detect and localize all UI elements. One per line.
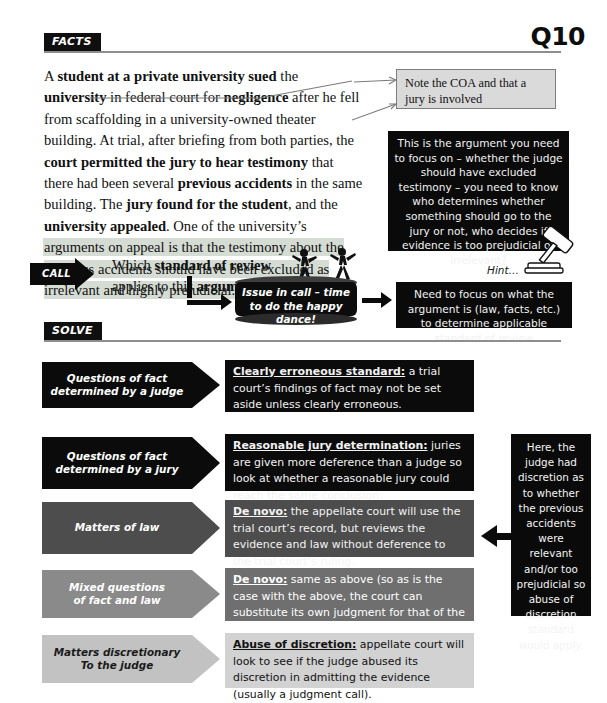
issue-in-call-drum: Issue in call – time to do the happy dan…: [235, 276, 357, 320]
row-definition-3: De novo: the appellate court will use th…: [225, 500, 474, 557]
table-row: Matters discretionary To the judge: [42, 635, 220, 683]
row-definition-2: Reasonable jury determination: juries ar…: [225, 434, 474, 491]
facts-section-rule: [44, 51, 561, 53]
row-label-line2: of fact and law: [73, 594, 160, 606]
arrow-shaft: [497, 533, 511, 540]
call-arrow: CALL: [30, 258, 94, 290]
call-arrow-elbow: [187, 276, 192, 298]
hint-label: Hint…: [487, 264, 519, 276]
row-arrow-head: [192, 570, 220, 618]
facts-note-box: Note the COA and that a jury is involved: [396, 69, 556, 109]
call-arrow-head: [75, 258, 94, 290]
row-label-3: Matters of law: [42, 502, 192, 554]
row-label-2: Questions of fact determined by a jury: [42, 437, 192, 489]
row-definition-1: Clearly erroneous standard: a trial cour…: [225, 360, 474, 412]
table-row: Questions of fact determined by a jury: [42, 437, 220, 489]
drum-text: Issue in call – time to do the happy dan…: [235, 286, 357, 327]
row-label-1: Questions of fact determined by a judge: [42, 362, 192, 408]
row-arrow-head: [192, 437, 220, 489]
row-term-4: De novo:: [233, 573, 287, 586]
row-label-line2: determined by a judge: [51, 385, 184, 397]
call-to-issue-arrow: [187, 294, 232, 310]
page-title: Q10: [530, 22, 585, 51]
arrow-head: [481, 525, 497, 547]
solve-callout-arrow: [481, 525, 511, 547]
arrow-head: [381, 292, 392, 308]
row-term-1: Clearly erroneous standard:: [233, 365, 405, 378]
table-row: Mixed questions of fact and law: [42, 570, 220, 618]
section-label-solve: SOLVE: [44, 322, 102, 340]
row-definition-4: De novo: same as above (so as is the cas…: [225, 568, 474, 621]
row-label-line1: Questions of fact: [67, 372, 167, 384]
row-term-3: De novo:: [233, 505, 287, 518]
row-label-line1: Matters discretionary: [54, 646, 181, 658]
call-label: CALL: [30, 263, 75, 285]
arrow-shaft: [362, 298, 381, 303]
row-label-line1: Mixed questions: [69, 581, 165, 593]
issue-to-note-arrow: [362, 292, 392, 308]
arrow-head: [221, 294, 232, 310]
row-term-5: Abuse of discretion:: [233, 638, 356, 651]
row-label-line1: Questions of fact: [67, 450, 167, 462]
solve-section-rule: [44, 340, 561, 342]
row-label-5: Matters discretionary To the judge: [42, 635, 192, 683]
facts-underline-connector: [90, 78, 360, 104]
arrow-shaft: [187, 300, 221, 305]
row-arrow-head: [192, 502, 220, 554]
row-label-line2: To the judge: [81, 659, 153, 671]
solve-right-callout: Here, the judge had discretion as to whe…: [511, 434, 591, 616]
call-right-callout: Need to focus on what the argument is (l…: [396, 282, 572, 328]
row-arrow-head: [192, 362, 220, 408]
gavel-icon: [520, 225, 580, 280]
row-label-4: Mixed questions of fact and law: [42, 570, 192, 618]
row-definition-5: Abuse of discretion: appellate court wil…: [225, 633, 474, 688]
row-arrow-head: [192, 635, 220, 683]
table-row: Matters of law: [42, 502, 220, 554]
table-row: Questions of fact determined by a judge: [42, 362, 220, 408]
row-term-2: Reasonable jury determination:: [233, 439, 428, 452]
row-label-line1: Matters of law: [75, 521, 160, 533]
row-label-line2: determined by a jury: [56, 463, 179, 475]
section-label-facts: FACTS: [44, 33, 101, 51]
